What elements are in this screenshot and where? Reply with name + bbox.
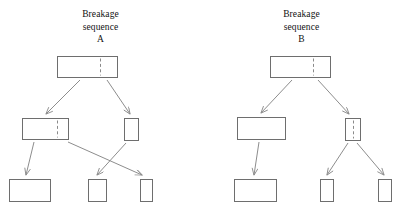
root-fragment-outline: [58, 57, 118, 78]
bottom-left-fragment: [10, 180, 51, 202]
root-fragment: [58, 57, 118, 78]
link-root-to-mid-right: [318, 80, 349, 114]
link-mid-right-to-leaf-3: [357, 143, 384, 175]
bottom-mid-fragment: [321, 180, 334, 202]
mid-right-fragment: [346, 119, 361, 141]
bottom-right-fragment-outline: [379, 180, 392, 202]
panel-breakage-sequence-a: Breakage sequence A: [0, 0, 201, 207]
bottom-mid-fragment-outline: [321, 180, 334, 202]
mid-left-fragment-outline: [238, 118, 286, 140]
root-fragment: [271, 57, 331, 78]
bottom-left-fragment-outline: [10, 180, 51, 202]
bottom-mid-fragment-outline: [89, 180, 107, 202]
panel-a-graph: [0, 0, 201, 207]
bottom-mid-fragment: [89, 180, 107, 202]
panel-b-graph: [201, 0, 402, 207]
link-root-to-mid-left: [261, 80, 292, 113]
mid-right-fragment-outline: [125, 119, 139, 141]
bottom-left-fragment-outline: [235, 180, 277, 202]
mid-left-fragment: [23, 119, 69, 140]
panel-a-nodes: [10, 57, 153, 202]
mid-left-fragment: [238, 118, 286, 140]
link-root-to-mid-right: [107, 80, 130, 114]
root-fragment-outline: [271, 57, 331, 78]
link-mid-left-to-leaf-1: [26, 142, 34, 175]
link-mid-left-to-leaf-1: [254, 142, 259, 175]
mid-left-fragment-outline: [23, 119, 69, 140]
bottom-right-fragment-outline: [141, 180, 153, 202]
bottom-right-fragment: [141, 180, 153, 202]
mid-right-fragment: [125, 119, 139, 141]
link-mid-left-to-leaf-3: [68, 142, 142, 175]
link-mid-right-to-leaf-2: [327, 143, 348, 175]
panel-b-nodes: [235, 57, 392, 202]
bottom-left-fragment: [235, 180, 277, 202]
figure-canvas: Breakage sequence A Breakage sequence B: [0, 0, 402, 207]
link-mid-right-to-leaf-2: [97, 143, 126, 175]
bottom-right-fragment: [379, 180, 392, 202]
panel-breakage-sequence-b: Breakage sequence B: [201, 0, 402, 207]
link-root-to-mid-left: [46, 80, 80, 114]
